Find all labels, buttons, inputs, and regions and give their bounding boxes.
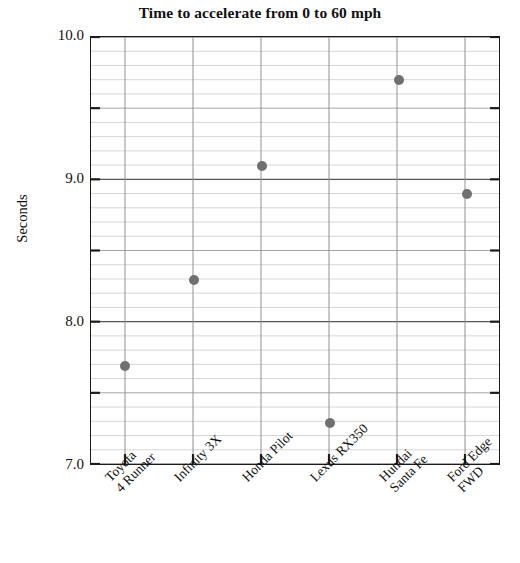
- x-axis-tick-labels: Toyota4 RunnerInfinity 3XHonda PilotLexu…: [0, 0, 520, 563]
- chart-figure: Time to accelerate from 0 to 60 mph Seco…: [0, 0, 520, 563]
- x-tick-label-line: Lexus RX350: [307, 421, 371, 485]
- x-tick-label-line: Honda Pilot: [239, 428, 296, 485]
- x-tick-label: Toyota4 Runner: [102, 439, 159, 496]
- x-tick-label: Infinity 3X: [171, 431, 224, 484]
- x-tick-label: Lexus RX350: [307, 421, 371, 485]
- x-tick-label: Ford EdgeFWD: [444, 434, 505, 495]
- x-tick-label-line: Infinity 3X: [171, 431, 224, 484]
- x-tick-label: HundaiSanta Fe: [376, 441, 431, 496]
- x-tick-label: Honda Pilot: [239, 428, 296, 485]
